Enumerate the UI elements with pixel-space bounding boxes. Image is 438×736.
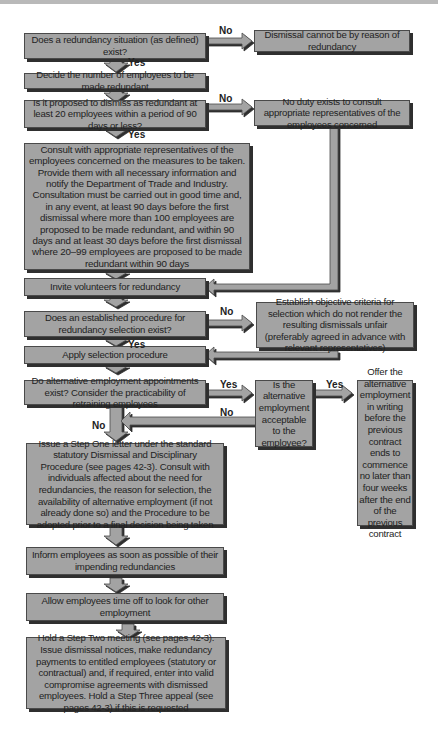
box-apply-selection: Apply selection procedure (24, 346, 206, 364)
edge-label-alternative-no: No (92, 420, 105, 431)
question-procedure-exists: Does an established procedure for redund… (24, 311, 206, 337)
box-allow-time-off: Allow employees time off to look for oth… (26, 593, 224, 621)
box-no-redundancy-dismissal: Dismissal cannot be by reason of redunda… (254, 30, 410, 52)
box-offer-alternative: Offer the alternative employment in writ… (357, 380, 413, 526)
question-twenty-employees: Is it proposed to dismiss as redundant a… (24, 100, 206, 128)
box-establish-criteria: Establish objective criteria for selecti… (256, 302, 414, 348)
box-consult-representatives: Consult with appropriate representatives… (24, 143, 250, 270)
box-no-duty-consult: No duty exists to consult appropriate re… (254, 100, 410, 126)
edge-label-twenty-yes: Yes (128, 129, 145, 140)
box-step-one-letter: Issue a Step One letter under the standa… (26, 443, 224, 525)
edge-label-acceptable-yes: Yes (326, 379, 343, 390)
edge-label-procedure-yes: Yes (128, 339, 145, 350)
edge-label-redundancy-no: No (219, 25, 232, 36)
edge-label-alternative-yes: Yes (220, 379, 237, 390)
box-decide-number: Decide the number of employees to be mad… (24, 73, 206, 89)
edge-label-redundancy-yes: Yes (128, 57, 145, 68)
box-invite-volunteers: Invite volunteers for redundancy (24, 278, 206, 296)
edge-label-twenty-no: No (219, 93, 232, 104)
edge-label-procedure-no: No (220, 306, 233, 317)
edge-label-acceptable-no: No (220, 407, 233, 418)
question-redundancy-exists: Does a redundancy situation (as defined)… (24, 33, 206, 59)
question-alternative-exists: Do alternative employment appointments e… (24, 380, 206, 405)
box-step-two-meeting: Hold a Step Two meeting (see pages 42-3)… (26, 637, 226, 709)
question-alternative-acceptable: Is the alternative employment acceptable… (255, 380, 313, 447)
box-inform-employees: Inform employees as soon as possible of … (26, 547, 224, 575)
